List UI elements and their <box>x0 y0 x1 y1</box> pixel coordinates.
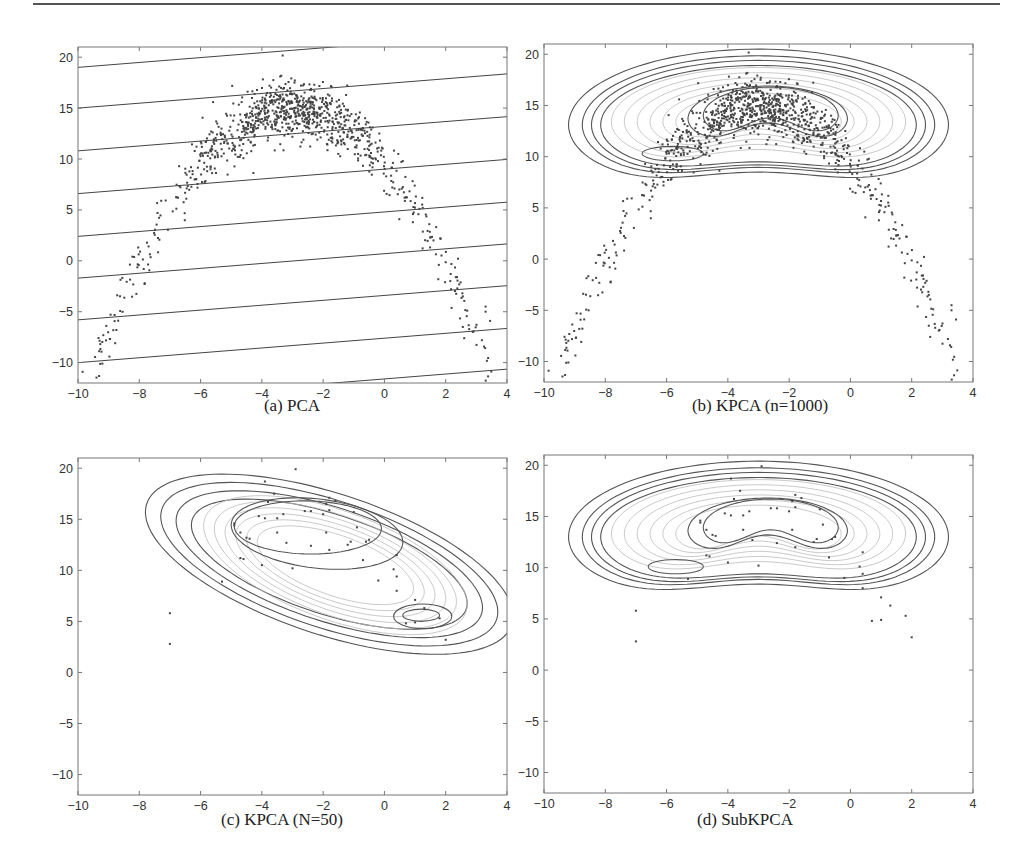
data-point <box>738 107 740 109</box>
data-point <box>304 106 306 108</box>
data-point <box>364 148 366 150</box>
data-point <box>247 91 249 93</box>
data-point <box>850 166 852 168</box>
data-point <box>266 116 268 118</box>
data-point <box>720 123 722 125</box>
data-point <box>760 121 762 123</box>
panel-a-caption: (a) PCA <box>264 396 321 415</box>
data-point <box>98 350 100 352</box>
data-point <box>744 92 746 94</box>
data-point <box>428 223 430 225</box>
data-point <box>414 185 416 187</box>
data-point <box>663 164 665 166</box>
data-point <box>294 112 296 114</box>
data-point <box>197 167 199 169</box>
data-point <box>949 344 951 346</box>
data-point <box>318 107 320 109</box>
data-point <box>261 118 263 120</box>
data-point <box>101 363 103 365</box>
data-point <box>261 564 263 566</box>
data-point <box>192 173 194 175</box>
data-point <box>667 144 669 146</box>
data-point <box>723 117 725 119</box>
data-point <box>259 100 261 102</box>
data-point <box>322 97 324 99</box>
data-point <box>790 118 792 120</box>
data-point <box>301 112 303 114</box>
data-point <box>256 89 258 91</box>
data-point <box>903 277 905 279</box>
y-tick-label: −10 <box>518 355 539 369</box>
data-point <box>369 144 371 146</box>
data-point <box>879 210 881 212</box>
data-point <box>635 640 637 642</box>
data-point <box>364 117 366 119</box>
data-point <box>775 143 777 145</box>
data-point <box>457 280 459 282</box>
data-point <box>876 198 878 200</box>
data-point <box>713 122 715 124</box>
data-point <box>633 227 635 229</box>
data-point <box>595 277 597 279</box>
data-point <box>345 109 347 111</box>
data-point <box>223 153 225 155</box>
data-point <box>614 268 616 270</box>
data-point <box>751 80 753 82</box>
data-point <box>396 576 398 578</box>
data-point <box>280 111 282 113</box>
data-point <box>904 262 906 264</box>
data-point <box>227 174 229 176</box>
data-point <box>148 269 150 271</box>
data-point <box>308 97 310 99</box>
data-point <box>774 95 776 97</box>
data-point <box>355 147 357 149</box>
data-point <box>203 168 205 170</box>
data-point <box>746 84 748 86</box>
data-point <box>276 517 278 519</box>
data-point <box>234 149 236 151</box>
data-point <box>887 202 889 204</box>
data-point <box>273 96 275 98</box>
data-point <box>806 114 808 116</box>
data-point <box>841 139 843 141</box>
data-point <box>184 219 186 221</box>
data-point <box>327 149 329 151</box>
data-point <box>792 141 794 143</box>
data-point <box>287 127 289 129</box>
data-point <box>276 532 278 534</box>
data-point <box>663 181 665 183</box>
data-point <box>794 494 796 496</box>
data-point <box>319 115 321 117</box>
data-point <box>837 171 839 173</box>
data-point <box>793 119 795 121</box>
data-point <box>878 178 880 180</box>
data-point <box>791 529 793 531</box>
data-point <box>766 93 768 95</box>
data-point <box>294 123 296 125</box>
data-point <box>393 568 395 570</box>
data-point <box>239 532 241 534</box>
data-point <box>283 106 285 108</box>
data-point <box>339 113 341 115</box>
data-point <box>783 122 785 124</box>
data-point <box>779 105 781 107</box>
data-point <box>806 121 808 123</box>
pca-contour-line <box>78 202 507 236</box>
data-point <box>294 98 296 100</box>
data-point <box>663 185 665 187</box>
data-point <box>952 359 954 361</box>
data-point <box>768 136 770 138</box>
data-point <box>671 139 673 141</box>
data-point <box>184 192 186 194</box>
data-point <box>835 162 837 164</box>
data-point <box>273 493 275 495</box>
data-point <box>587 275 589 277</box>
data-point <box>249 112 251 114</box>
data-point <box>592 279 594 281</box>
data-point <box>806 141 808 143</box>
data-point <box>343 116 345 118</box>
data-point <box>280 75 282 77</box>
data-point <box>209 133 211 135</box>
data-point <box>383 190 385 192</box>
data-point <box>690 134 692 136</box>
